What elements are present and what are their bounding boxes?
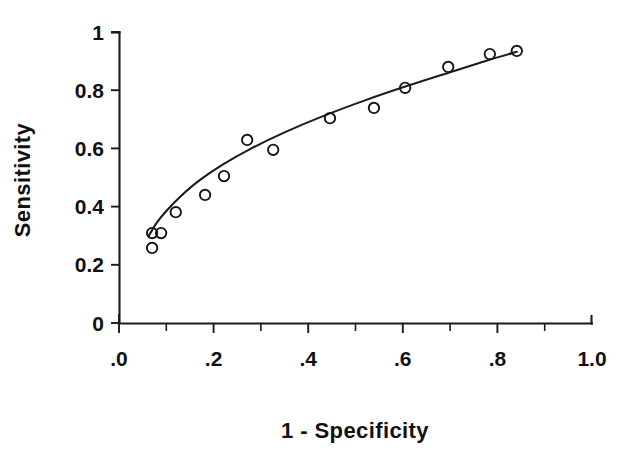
roc-data-point (147, 243, 157, 253)
roc-data-point (369, 103, 379, 113)
roc-data-point (219, 171, 229, 181)
y-axis-tick-labels: 00.20.40.60.81 (75, 21, 105, 335)
roc-plot-svg: 00.20.40.60.81 .0.2.4.6.81.0 1 - Specifi… (0, 0, 626, 460)
roc-data-points (147, 46, 522, 253)
roc-fitted-curve (149, 52, 517, 236)
x-tick-label: .0 (110, 347, 128, 370)
roc-data-point (200, 190, 210, 200)
y-tick-label: 1 (92, 21, 104, 44)
x-tick-label: .8 (489, 347, 507, 370)
x-axis-tick-labels: .0.2.4.6.81.0 (110, 347, 606, 370)
y-tick-label: 0.2 (75, 253, 104, 276)
x-axis-minor-ticks (166, 324, 544, 332)
roc-data-point (485, 49, 495, 59)
y-tick-label: 0 (92, 312, 104, 335)
x-tick-label: 1.0 (577, 347, 606, 370)
x-tick-label: .4 (299, 347, 317, 370)
plot-axes (112, 32, 592, 324)
x-tick-label: .2 (205, 347, 223, 370)
x-axis-title: 1 - Specificity (281, 418, 429, 443)
roc-chart: 00.20.40.60.81 .0.2.4.6.81.0 1 - Specifi… (0, 0, 626, 460)
y-tick-label: 0.8 (75, 79, 105, 102)
roc-data-point (242, 135, 252, 145)
y-axis-ticks (111, 32, 120, 323)
roc-data-point (268, 145, 278, 155)
roc-data-point (171, 207, 181, 217)
y-tick-label: 0.4 (75, 195, 105, 218)
y-axis-title: Sensitivity (10, 122, 35, 237)
y-tick-label: 0.6 (75, 137, 104, 160)
roc-data-point (443, 62, 453, 72)
x-tick-label: .6 (394, 347, 412, 370)
